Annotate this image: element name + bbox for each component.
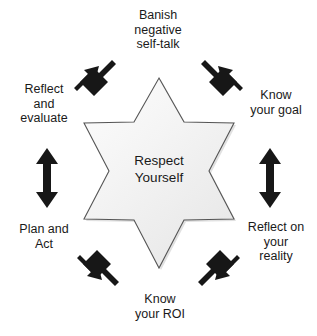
center-label: Respect Yourself xyxy=(104,152,214,186)
node-label-upper-left: Reflect and evaluate xyxy=(2,82,86,126)
node-label-top: Banish negative self-talk xyxy=(108,8,208,52)
arrow-left-vertical xyxy=(36,148,58,208)
node-label-lower-left: Plan and Act xyxy=(2,222,86,251)
arrow-right-vertical xyxy=(259,148,281,208)
diagram-canvas: Respect Yourself Banish negative self-ta… xyxy=(0,0,317,336)
node-label-upper-right: Know your goal xyxy=(236,88,316,117)
arrow-lower-left-diagonal xyxy=(77,250,119,286)
node-label-bottom: Know your ROI xyxy=(110,292,210,321)
node-label-lower-right: Reflect on your reality xyxy=(236,220,316,264)
arrow-lower-right-diagonal xyxy=(198,250,240,286)
